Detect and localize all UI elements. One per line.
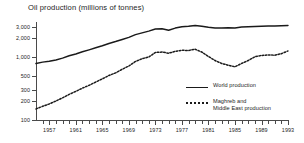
series-layer bbox=[0, 0, 304, 143]
legend-label-world-production: World production bbox=[213, 82, 256, 89]
legend-item-maghreb-middle-east-production: Maghreb and Middle East production bbox=[186, 98, 298, 114]
legend-swatch-dotted-line-icon bbox=[186, 102, 208, 104]
oil-production-chart: Oil production (millions of tonnes) 1002… bbox=[0, 0, 304, 143]
chart-legend: World production Maghreb and Middle East… bbox=[186, 82, 298, 114]
legend-label-maghreb-middle-east-production: Maghreb and Middle East production bbox=[213, 98, 271, 111]
legend-swatch-solid-line-icon bbox=[186, 87, 208, 89]
legend-item-world-production: World production bbox=[186, 82, 298, 98]
series-line-world-production bbox=[36, 25, 288, 63]
